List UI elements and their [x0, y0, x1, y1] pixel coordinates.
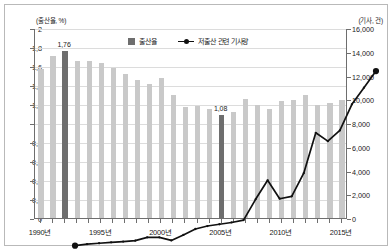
line-point-1993 — [110, 241, 112, 243]
line-point-2006 — [266, 179, 268, 181]
line-point-2014 — [363, 87, 365, 89]
line-point-1991 — [86, 243, 88, 245]
y-axis-left-tick-mark — [30, 219, 34, 220]
left-axis-unit-label: (출산율, %) — [36, 15, 66, 25]
line-point-1999 — [182, 234, 184, 236]
line-point-2004 — [242, 219, 244, 221]
x-axis-tick-mark — [64, 219, 65, 223]
line-point-1996 — [146, 236, 148, 238]
line-point-2008 — [291, 195, 293, 197]
line-point-2009 — [303, 172, 305, 174]
x-axis-tick-mark — [52, 219, 53, 223]
bar-1991 — [50, 56, 55, 218]
line-point-1995 — [134, 239, 136, 241]
fertility-rate-article-volume-chart: (출산율, %) (기사, 건) 출산율 저출산 관련 기사량 00,20,40… — [0, 0, 392, 250]
line-point-2015 — [373, 68, 379, 74]
right-axis-unit-label: (기사, 건) — [358, 15, 383, 25]
x-axis-tick-mark — [40, 219, 41, 223]
article-volume-polyline — [75, 71, 376, 246]
article-volume-line — [69, 58, 382, 248]
gridline — [35, 48, 346, 49]
line-point-1997 — [158, 236, 160, 238]
line-point-2000 — [194, 228, 196, 230]
y-axis-right-tick-label: 16,000 — [352, 25, 388, 34]
line-point-1998 — [170, 239, 172, 241]
line-point-2013 — [351, 103, 353, 105]
line-point-1994 — [122, 240, 124, 242]
bar-value-label-2005: 1,08 — [214, 105, 227, 112]
line-point-2011 — [327, 140, 329, 142]
line-point-2012 — [339, 129, 341, 131]
y-axis-right-tick-label: 14,000 — [352, 48, 388, 57]
line-point-2005 — [254, 198, 256, 200]
y-axis-right-tick-mark — [347, 29, 351, 30]
y-axis-right-tick-mark — [347, 53, 351, 54]
line-point-2002 — [218, 223, 220, 225]
line-point-2007 — [279, 198, 281, 200]
gridline — [35, 29, 346, 30]
line-point-1992 — [98, 242, 100, 244]
bar-1990 — [38, 69, 43, 218]
line-point-2010 — [315, 132, 317, 134]
bar-1992 — [62, 51, 67, 218]
line-point-2001 — [206, 225, 208, 227]
x-axis-tick-label: 1990년 — [29, 226, 51, 237]
line-point-2003 — [230, 221, 232, 223]
bar-value-label-1992: 1,76 — [57, 41, 70, 48]
line-point-1990 — [72, 243, 78, 249]
plot-area — [34, 29, 347, 219]
